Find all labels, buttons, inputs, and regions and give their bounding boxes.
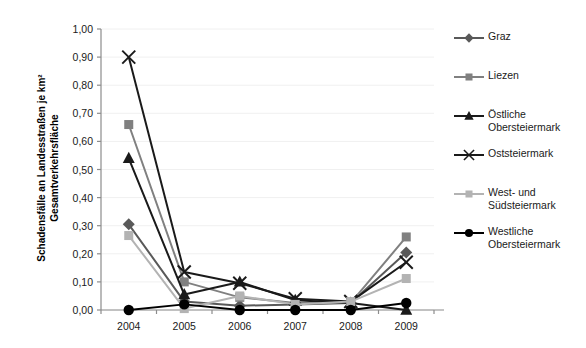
y-axis-tick-label: 0,00 <box>73 304 94 316</box>
y-axis-tick-label: 0,60 <box>73 135 94 147</box>
marker-circle <box>401 298 411 308</box>
legend-label: Graz <box>486 30 511 43</box>
marker-diamond <box>464 33 473 42</box>
grid-layer <box>101 29 434 310</box>
legend-key-glyph <box>452 148 486 162</box>
y-axis-tick-label: 0,80 <box>73 79 94 91</box>
plot-area: 0,000,100,200,300,400,500,600,700,800,90… <box>0 0 452 348</box>
legend-key-glyph <box>452 70 486 84</box>
marker-square <box>465 73 472 80</box>
legend-marker-circle-icon <box>452 226 486 240</box>
marker-circle <box>346 305 356 315</box>
legend-label: Westliche Obersteiermark <box>486 225 584 251</box>
legend-label: Oststeiermark <box>486 147 553 160</box>
y-axis-tick-label: 0,90 <box>73 51 94 63</box>
marker-circle <box>235 305 245 315</box>
y-axis-tick-labels: 0,000,100,200,300,400,500,600,700,800,90… <box>73 23 94 316</box>
marker-circle <box>465 229 473 237</box>
y-axis-tick-label: 0,50 <box>73 164 94 176</box>
series-line <box>129 125 407 303</box>
series-oststeiermark <box>122 51 413 308</box>
marker-square <box>402 274 411 283</box>
x-axis-tick-label: 2009 <box>395 320 419 332</box>
x-axis-tick-label: 2008 <box>339 320 363 332</box>
x-axis-tick-label: 2005 <box>173 320 197 332</box>
legend-item[interactable]: West- und Südsteiermark <box>452 186 584 212</box>
legend-key-glyph <box>452 187 486 201</box>
series-line <box>129 236 407 309</box>
legend-item[interactable]: Oststeiermark <box>452 147 584 173</box>
marker-square <box>124 120 133 129</box>
series-west-und-s-dsteiermark <box>124 231 411 313</box>
legend-key-glyph <box>452 226 486 240</box>
y-axis-tick-label: 0,40 <box>73 192 94 204</box>
legend-key-glyph <box>452 31 486 45</box>
marker-circle <box>124 305 134 315</box>
legend-marker-square-icon <box>452 187 486 201</box>
legend-label: Liezen <box>486 69 519 82</box>
chart-container: Schadensfälle an Landesstraßen je km² Ge… <box>0 0 586 348</box>
marker-triangle <box>123 152 135 163</box>
marker-square <box>124 231 133 240</box>
y-axis-tick-label: 0,30 <box>73 220 94 232</box>
x-axis-tick-label: 2007 <box>284 320 308 332</box>
legend-item[interactable]: Liezen <box>452 69 584 95</box>
x-axis-tick-labels: 200420052006200720082009 <box>117 320 418 332</box>
legend-marker-triangle-icon <box>452 109 486 123</box>
x-axis-tick-label: 2006 <box>228 320 252 332</box>
marker-square <box>465 190 472 197</box>
legend-marker-diamond-icon <box>452 31 486 45</box>
legend-marker-cross-icon <box>452 148 486 162</box>
marker-square <box>346 297 355 306</box>
legend-key-glyph <box>452 109 486 123</box>
legend-label: West- und Südsteiermark <box>486 186 584 212</box>
legend-item[interactable]: Westliche Obersteiermark <box>452 225 584 251</box>
chart-legend: GrazLiezenÖstliche ObersteiermarkOststei… <box>452 30 584 264</box>
data-series-layer <box>122 51 413 316</box>
marker-square <box>402 232 411 241</box>
series-line <box>129 224 407 305</box>
y-axis-tick-label: 0,10 <box>73 276 94 288</box>
legend-item[interactable]: Östliche Obersteiermark <box>452 108 584 134</box>
legend-marker-square-icon <box>452 70 486 84</box>
marker-circle <box>290 305 300 315</box>
y-axis-tick-label: 0,20 <box>73 248 94 260</box>
series-line <box>129 57 407 301</box>
y-axis-tick-label: 1,00 <box>73 23 94 35</box>
marker-circle <box>179 299 189 309</box>
legend-label: Östliche Obersteiermark <box>486 108 584 134</box>
marker-square <box>235 291 244 300</box>
legend-item[interactable]: Graz <box>452 30 584 56</box>
x-axis-tick-label: 2004 <box>117 320 141 332</box>
y-axis-tick-label: 0,70 <box>73 107 94 119</box>
